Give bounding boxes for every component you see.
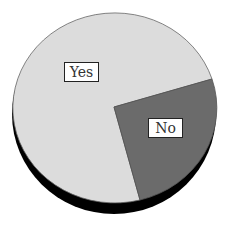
slice-label-yes: Yes (64, 62, 99, 82)
slice-label-no: No (148, 118, 183, 138)
pie-chart (0, 0, 228, 228)
